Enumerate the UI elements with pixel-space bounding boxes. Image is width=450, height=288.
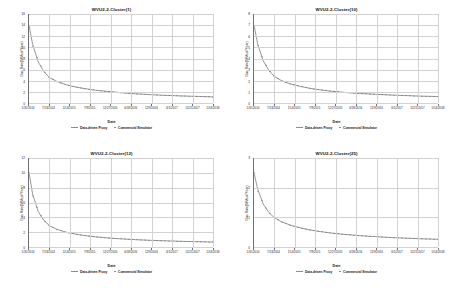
grid-line-vertical	[131, 14, 132, 103]
simulator-marker	[285, 223, 287, 224]
x-tick-label: 6/1/2017	[391, 106, 402, 110]
grid-line-vertical	[418, 158, 419, 247]
line-swatch-icon	[296, 127, 303, 128]
simulator-marker	[425, 96, 427, 97]
simulator-marker	[421, 238, 423, 239]
plot-area: Gas Rate(MMscf/Year) 0123 1/31/20147/24/…	[253, 158, 438, 248]
simulator-marker	[305, 229, 307, 230]
plot-area: Gas Rate(MMscf/Year) 024681012 1/31/2014…	[28, 158, 213, 248]
grid-line-horizontal	[29, 81, 213, 82]
x-axis-ticks: 1/31/20147/24/20141/14/20157/9/201512/27…	[28, 104, 213, 118]
simulator-marker	[40, 66, 42, 67]
x-tick-label: 11/21/2017	[410, 250, 424, 254]
x-tick-label: 12/9/2016	[145, 250, 158, 254]
grid-line-vertical	[172, 158, 173, 247]
simulator-marker	[309, 88, 311, 89]
y-tick-label: 12	[21, 35, 25, 39]
y-tick-label: 2	[23, 91, 25, 95]
grid-line-vertical	[274, 158, 275, 247]
grid-line-vertical	[438, 158, 439, 247]
simulator-marker	[381, 94, 383, 95]
line-swatch-icon	[71, 127, 78, 128]
grid-line-horizontal	[29, 188, 213, 189]
legend-item-proxy: Data-driven Proxy	[296, 126, 332, 130]
simulator-marker	[301, 86, 303, 87]
x-tick-label: 1/31/2014	[247, 250, 260, 254]
simulator-marker	[393, 237, 395, 238]
x-tick-label: 6/18/2016	[124, 250, 137, 254]
simulator-marker	[140, 239, 142, 240]
grid-line-vertical	[90, 14, 91, 103]
simulator-marker	[269, 213, 271, 214]
simulator-marker	[64, 84, 66, 85]
dot-marker-icon	[114, 271, 116, 273]
grid-line-vertical	[111, 158, 112, 247]
grid-line-horizontal	[254, 36, 438, 37]
simulator-marker	[425, 238, 427, 239]
grid-line-horizontal	[29, 47, 213, 48]
simulator-marker	[92, 236, 94, 237]
chart-title: WVU2-2-Cluster(12)	[2, 151, 221, 156]
simulator-marker	[116, 238, 118, 239]
simulator-marker	[433, 96, 435, 97]
simulator-marker	[160, 95, 162, 96]
x-tick-label: 7/9/2015	[84, 250, 95, 254]
x-tick-label: 6/1/2017	[166, 250, 177, 254]
y-axis-ticks: 0123	[239, 158, 251, 248]
x-tick-label: 5/14/2018	[207, 250, 220, 254]
grid-line-horizontal	[254, 14, 438, 15]
simulator-marker	[317, 89, 319, 90]
grid-line-vertical	[377, 14, 378, 103]
grid-line-horizontal	[29, 158, 213, 159]
grid-line-horizontal	[254, 81, 438, 82]
grid-line-vertical	[90, 158, 91, 247]
simulator-marker	[44, 221, 46, 222]
simulator-marker	[200, 96, 202, 97]
simulator-marker	[389, 94, 391, 95]
x-tick-label: 11/21/2017	[185, 106, 199, 110]
simulator-marker	[120, 238, 122, 239]
simulator-marker	[329, 232, 331, 233]
x-tick-label: 12/9/2016	[370, 106, 383, 110]
y-tick-label: 1	[248, 91, 250, 95]
y-tick-label: 8	[23, 186, 25, 190]
y-tick-label: 2	[23, 231, 25, 235]
x-axis-ticks: 1/31/20147/24/20141/14/20157/9/201512/27…	[253, 104, 438, 118]
simulator-marker	[144, 240, 146, 241]
grid-line-vertical	[377, 158, 378, 247]
legend: Data-driven Proxy Commercial Simulator	[227, 270, 446, 274]
grid-line-vertical	[49, 14, 50, 103]
simulator-marker	[385, 237, 387, 238]
legend-label-proxy: Data-driven Proxy	[305, 126, 332, 130]
grid-line-horizontal	[29, 14, 213, 15]
grid-line-horizontal	[254, 47, 438, 48]
y-axis-ticks: 024681012	[14, 158, 26, 248]
x-tick-label: 5/14/2018	[432, 106, 445, 110]
y-tick-label: 10	[21, 171, 25, 175]
grid-line-vertical	[111, 14, 112, 103]
grid-line-horizontal	[254, 59, 438, 60]
y-tick-label: 6	[23, 68, 25, 72]
grid-line-horizontal	[254, 70, 438, 71]
x-tick-label: 1/14/2015	[63, 106, 76, 110]
simulator-marker	[140, 94, 142, 95]
simulator-marker	[341, 234, 343, 235]
chart-title: WVU2-2-Cluster(25)	[227, 151, 446, 156]
simulator-marker	[285, 82, 287, 83]
simulator-marker	[389, 237, 391, 238]
simulator-marker	[164, 95, 166, 96]
simulator-marker	[36, 207, 38, 208]
x-axis-label: Date	[227, 264, 446, 268]
simulator-marker	[421, 96, 423, 97]
x-tick-label: 6/18/2016	[349, 106, 362, 110]
legend: Data-driven Proxy Commercial Simulator	[2, 126, 221, 130]
grid-line-horizontal	[29, 217, 213, 218]
x-tick-label: 1/14/2015	[288, 106, 301, 110]
simulator-marker	[365, 236, 367, 237]
x-tick-label: 11/21/2017	[410, 106, 424, 110]
simulator-marker	[353, 235, 355, 236]
x-tick-label: 5/14/2018	[207, 106, 220, 110]
grid-line-vertical	[356, 14, 357, 103]
dot-marker-icon	[114, 127, 116, 129]
x-tick-label: 11/21/2017	[185, 250, 199, 254]
